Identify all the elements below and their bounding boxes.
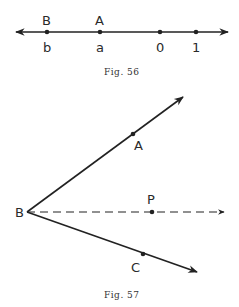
label-a: a xyxy=(96,40,104,55)
angle-figure: A B P C Fig. 57 xyxy=(15,97,224,300)
ray-BA xyxy=(27,97,183,212)
label-P: P xyxy=(147,192,155,207)
label-one: 1 xyxy=(192,40,200,55)
point-one xyxy=(194,30,199,35)
point-P xyxy=(150,210,155,215)
number-line-figure: B A b a 0 1 Fig. 56 xyxy=(16,13,228,77)
point-C xyxy=(141,252,146,257)
point-zero xyxy=(158,30,163,35)
label-B: B xyxy=(15,205,24,220)
point-b xyxy=(45,30,50,35)
point-a xyxy=(98,30,103,35)
point-A xyxy=(131,132,136,137)
figures-canvas: B A b a 0 1 Fig. 56 A B P C Fig. 57 xyxy=(0,0,239,307)
label-b: b xyxy=(43,40,51,55)
label-A: A xyxy=(95,13,104,28)
ray-BC xyxy=(27,212,197,272)
caption-fig56: Fig. 56 xyxy=(104,67,140,77)
label-C: C xyxy=(131,260,140,275)
label-A: A xyxy=(134,138,143,153)
label-zero: 0 xyxy=(156,40,164,55)
caption-fig57: Fig. 57 xyxy=(104,290,140,300)
label-B: B xyxy=(42,13,51,28)
